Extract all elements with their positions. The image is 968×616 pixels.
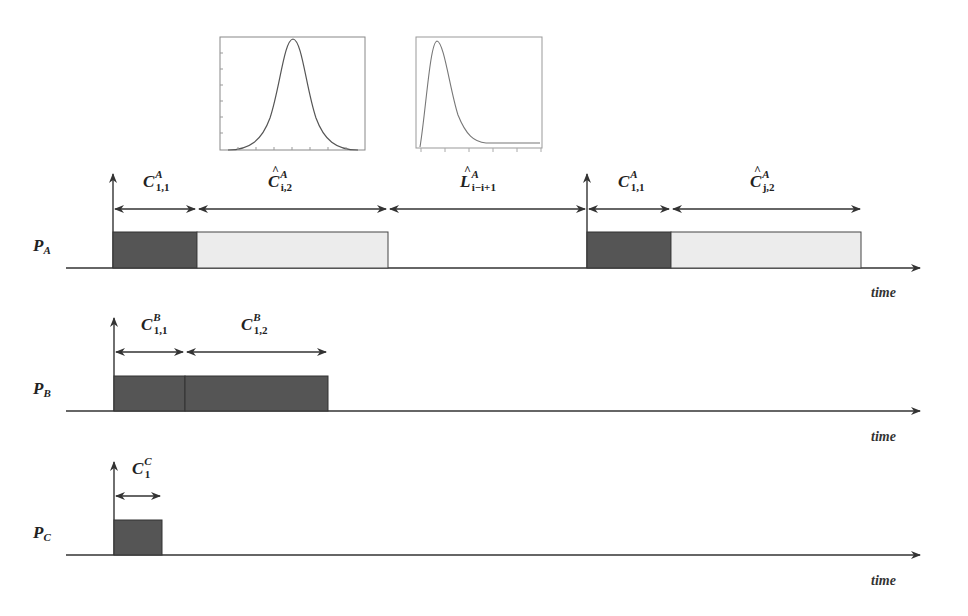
segment-measured <box>113 232 197 268</box>
segment-label: CC1 <box>132 459 150 479</box>
processor-b-timeline <box>66 318 920 411</box>
processor-label-c: PC <box>33 523 51 543</box>
skewed-distribution-plot <box>416 37 542 152</box>
segment-estimated <box>197 232 388 268</box>
segment-label: CB1,2 <box>241 315 267 335</box>
processor-c-timeline <box>66 462 920 555</box>
segment-estimated <box>671 232 861 268</box>
segment-label: ^CAi,2 <box>268 172 292 192</box>
segment-label: CA1,1 <box>143 172 169 192</box>
segment-label: ^CAj,2 <box>750 172 775 192</box>
hat-accent: ^ <box>754 163 761 178</box>
time-axis-label-c: time <box>871 573 896 589</box>
processor-label-a: PA <box>33 236 51 256</box>
processor-label-b: PB <box>33 379 51 399</box>
segment-measured <box>185 376 328 411</box>
segment-measured <box>114 520 162 555</box>
segment-label: CB1,1 <box>141 315 167 335</box>
hat-accent: ^ <box>464 163 471 178</box>
segment-measured <box>114 376 185 411</box>
gaussian-distribution-plot <box>220 37 365 150</box>
time-axis-label-a: time <box>871 285 896 301</box>
segment-measured <box>587 232 671 268</box>
segment-label: ^LAi−i+1 <box>460 172 496 192</box>
segment-label: CA1,1 <box>618 172 644 192</box>
timeline-diagram <box>0 0 968 616</box>
time-axis-label-b: time <box>871 429 896 445</box>
hat-accent: ^ <box>272 163 279 178</box>
